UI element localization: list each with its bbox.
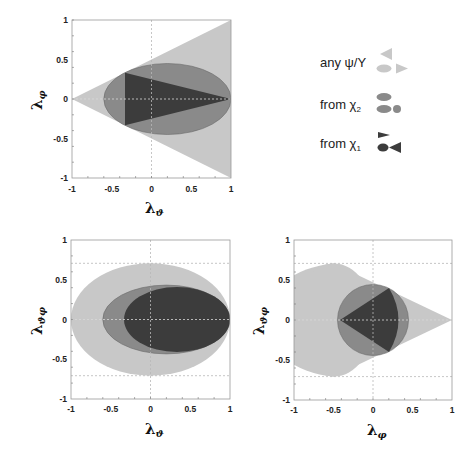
svg-text:0.5: 0.5 <box>278 275 290 285</box>
plot-lambda-phi-vs-lambda-theta: 1 0.5 0 -0.5 -1 -1 -0.5 0 0.5 1 λϑ λφ <box>28 15 234 218</box>
legend-triangle-right-icon <box>396 64 408 74</box>
legend-ellipse-icon <box>377 65 392 73</box>
y-tick-labels: 1 0.5 0 -0.5 -1 <box>275 235 290 405</box>
x-axis-label: λϑ <box>145 420 165 439</box>
plot-lambda-thetaphi-vs-lambda-theta: 1 0.5 0 -0.5 -1 -1 -0.5 0 0.5 1 λϑ λϑφ <box>28 235 233 439</box>
x-tick-labels: -1 -0.5 0 0.5 1 <box>290 405 454 415</box>
svg-text:-0.5: -0.5 <box>53 134 68 144</box>
svg-text:0: 0 <box>62 315 67 325</box>
x-tick-labels: -1 -0.5 0 0.5 1 <box>67 404 232 414</box>
legend-ellipse-icon <box>378 144 389 152</box>
svg-text:1: 1 <box>63 15 68 25</box>
svg-text:0.5: 0.5 <box>185 184 197 194</box>
legend-triangle-right-icon <box>378 132 390 138</box>
x-axis-label: λφ <box>367 421 387 440</box>
svg-text:-1: -1 <box>282 395 290 405</box>
svg-text:0: 0 <box>63 94 68 104</box>
svg-text:0: 0 <box>285 315 290 325</box>
legend: any ψ/Υ from χ2 from χ1 <box>320 48 408 153</box>
svg-text:0.5: 0.5 <box>184 404 196 414</box>
legend-item-from-chi1: from χ1 <box>320 132 401 153</box>
svg-text:-0.5: -0.5 <box>52 354 67 364</box>
svg-text:0: 0 <box>148 404 153 414</box>
svg-text:0: 0 <box>371 405 376 415</box>
svg-text:-0.5: -0.5 <box>326 405 341 415</box>
y-tick-labels: 1 0.5 0 -0.5 -1 <box>53 15 68 183</box>
legend-triangle-left-icon <box>389 142 401 153</box>
legend-ellipse-icon <box>377 105 392 113</box>
svg-text:-0.5: -0.5 <box>103 404 118 414</box>
x-tick-labels: -1 -0.5 0 0.5 1 <box>68 184 233 194</box>
legend-item-from-chi2: from χ2 <box>320 93 401 114</box>
y-axis-label: λϑφ <box>250 307 269 335</box>
figure-canvas: 1 0.5 0 -0.5 -1 -1 -0.5 0 0.5 1 λϑ λφ an… <box>0 0 470 451</box>
svg-text:0.5: 0.5 <box>55 275 67 285</box>
svg-text:-0.5: -0.5 <box>104 184 119 194</box>
legend-item-any-psi-upsilon: any ψ/Υ <box>320 48 408 74</box>
svg-text:-1: -1 <box>68 184 76 194</box>
svg-text:0.5: 0.5 <box>56 55 68 65</box>
svg-text:any ψ/Υ: any ψ/Υ <box>320 55 366 70</box>
svg-text:1: 1 <box>285 235 290 245</box>
y-tick-labels: 1 0.5 0 -0.5 -1 <box>52 235 67 404</box>
svg-text:from χ2: from χ2 <box>320 97 361 114</box>
svg-text:0: 0 <box>149 184 154 194</box>
svg-text:-1: -1 <box>67 404 75 414</box>
plot-lambda-thetaphi-vs-lambda-phi: 1 0.5 0 -0.5 -1 -1 -0.5 0 0.5 1 λφ λϑφ <box>250 235 455 440</box>
y-axis-label: λφ <box>28 90 47 110</box>
legend-circle-icon <box>393 105 401 113</box>
svg-text:0.5: 0.5 <box>407 405 419 415</box>
x-axis-label: λϑ <box>145 199 165 218</box>
svg-text:1: 1 <box>450 405 455 415</box>
svg-text:from χ1: from χ1 <box>320 136 361 153</box>
svg-text:1: 1 <box>229 184 234 194</box>
y-axis-label: λϑφ <box>28 307 47 335</box>
svg-text:-1: -1 <box>60 173 68 183</box>
legend-ellipse-icon <box>377 93 392 101</box>
legend-triangle-left-icon <box>380 48 392 60</box>
svg-text:-1: -1 <box>59 394 67 404</box>
svg-text:1: 1 <box>228 404 233 414</box>
svg-text:-1: -1 <box>290 405 298 415</box>
svg-text:-0.5: -0.5 <box>275 355 290 365</box>
svg-text:1: 1 <box>62 235 67 245</box>
